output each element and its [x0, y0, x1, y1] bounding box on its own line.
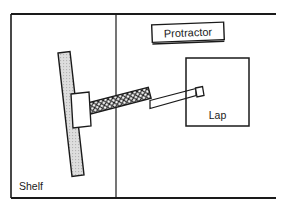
- outer-frame: [11, 14, 276, 198]
- lap-label: Lap: [209, 109, 227, 121]
- protractor-box: Protractor: [152, 22, 225, 44]
- tapered-rod: [150, 89, 196, 109]
- protractor-label: Protractor: [164, 26, 213, 40]
- mount-block-body: [71, 92, 91, 128]
- tapered-rod-body: [150, 89, 196, 109]
- diagram-canvas: Lap Protractor Shelf: [0, 0, 285, 211]
- shelf-label: Shelf: [19, 180, 43, 192]
- mount-block: [71, 92, 91, 128]
- rod-tip: [196, 87, 205, 98]
- knurled-shaft: [84, 87, 151, 115]
- knurled-shaft-body: [84, 87, 151, 115]
- technical-diagram: Lap Protractor Shelf: [0, 0, 285, 211]
- rod-tip-body: [196, 87, 205, 98]
